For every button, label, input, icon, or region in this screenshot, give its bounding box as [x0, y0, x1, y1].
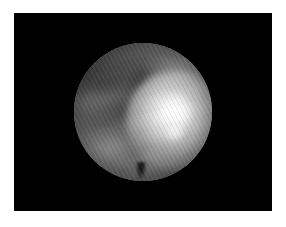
image-canvas — [14, 13, 272, 211]
image-viewer — [0, 0, 286, 227]
instrument-tip-notch — [136, 162, 146, 181]
tissue-bulge-bottom — [115, 145, 178, 181]
circular-field-of-view — [74, 43, 212, 181]
